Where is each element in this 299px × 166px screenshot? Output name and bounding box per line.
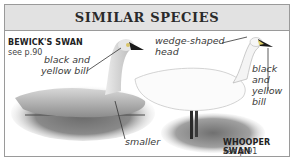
panel-header: SIMILAR SPECIES (5, 5, 289, 31)
whooper-swan-page-ref[interactable]: see p.91 (223, 147, 257, 156)
whooper-bill-label-4: bill (252, 96, 266, 107)
bewick-bill-label-2: yellow bill (41, 65, 88, 76)
whooper-head-label-1: wedge-shaped (155, 35, 225, 46)
bewick-bill-label-1: black and (44, 54, 90, 65)
whooper-bill-label-3: yellow (252, 85, 282, 96)
bewick-swan-name: BEWICK'S SWAN (8, 38, 83, 47)
bewick-size-label: smaller (125, 136, 160, 147)
bewick-swan-page-ref[interactable]: see p.90 (8, 48, 42, 57)
whooper-bill-label-2: and (252, 74, 270, 85)
whooper-head-label-2: head (155, 46, 179, 57)
panel-title: SIMILAR SPECIES (75, 10, 219, 25)
whooper-bill-label-1: black (252, 63, 277, 74)
similar-species-panel: SIMILAR SPECIES (4, 4, 290, 157)
